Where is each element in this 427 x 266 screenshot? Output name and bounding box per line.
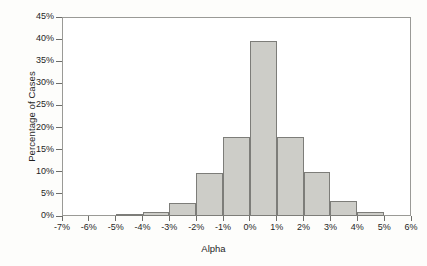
histogram-figure: Percentage of Cases 0%5%10%15%20%25%30%3… <box>0 0 427 266</box>
y-tick-mark <box>56 171 62 172</box>
x-tick-mark <box>196 216 197 221</box>
y-tick-mark <box>56 193 62 194</box>
y-tick-label: 25% <box>14 100 54 109</box>
x-tick-mark <box>411 216 412 221</box>
histogram-bar <box>223 137 250 216</box>
histogram-bar <box>143 212 170 216</box>
x-axis-title: Alpha <box>0 243 427 254</box>
histogram-bar <box>196 173 223 216</box>
x-tick-mark <box>249 216 250 221</box>
histogram-bar <box>250 41 277 216</box>
x-tick-mark <box>88 216 89 221</box>
histogram-bar <box>330 201 357 216</box>
y-tick-mark <box>56 149 62 150</box>
x-tick-mark <box>142 216 143 221</box>
histogram-bar <box>116 214 143 216</box>
histogram-bar <box>304 172 331 216</box>
y-tick-mark <box>56 127 62 128</box>
x-tick-mark <box>330 216 331 221</box>
x-tick-mark <box>62 216 63 221</box>
histogram-bar <box>277 137 304 216</box>
x-tick-mark <box>384 216 385 221</box>
x-tick-mark <box>357 216 358 221</box>
histogram-bar <box>357 212 384 216</box>
y-tick-mark <box>56 83 62 84</box>
y-tick-label: 20% <box>14 123 54 132</box>
y-tick-label: 40% <box>14 34 54 43</box>
y-tick-mark <box>56 39 62 40</box>
x-tick-mark <box>303 216 304 221</box>
x-tick-mark <box>169 216 170 221</box>
x-tick-mark <box>115 216 116 221</box>
y-tick-label: 0% <box>14 211 54 220</box>
x-tick-mark <box>223 216 224 221</box>
y-tick-label: 35% <box>14 56 54 65</box>
histogram-bar <box>169 203 196 216</box>
x-tick-mark <box>276 216 277 221</box>
y-tick-label: 45% <box>14 12 54 21</box>
y-tick-label: 5% <box>14 189 54 198</box>
y-tick-label: 15% <box>14 145 54 154</box>
y-tick-mark <box>56 61 62 62</box>
y-tick-label: 30% <box>14 78 54 87</box>
y-tick-mark <box>56 17 62 18</box>
y-tick-mark <box>56 105 62 106</box>
x-tick-label: 6% <box>394 223 427 232</box>
y-tick-label: 10% <box>14 167 54 176</box>
